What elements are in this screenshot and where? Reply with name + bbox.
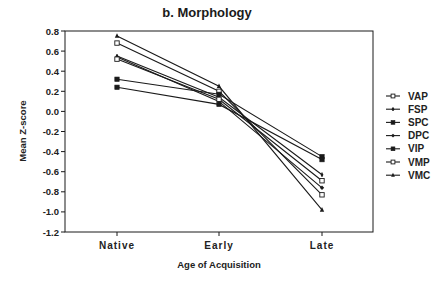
series-vap [115,41,324,197]
open-square-marker-icon [320,179,324,183]
y-tick-label: -1.2 [43,227,59,238]
filled-square-marker-icon [115,85,119,89]
legend-item-dpc: DPC [386,130,429,141]
y-tick-label: 0.6 [46,46,59,57]
legend-item-vmp: VMP [386,157,430,168]
triangle-marker-icon [115,33,119,38]
legend-item-fsp: FSP [386,104,428,115]
open-square-marker-icon [391,94,395,98]
plus-marker-icon [321,173,324,177]
y-tick-label: 0.2 [46,86,59,97]
series-layer [115,33,324,211]
legend-label: VMC [408,170,430,181]
series-line [117,57,322,188]
y-tick-label: 0.8 [46,26,59,37]
y-tick-label: -0.2 [43,126,59,137]
filled-square-marker-icon [320,157,324,161]
filled-square-marker-icon [115,77,119,81]
open-square-marker-icon [391,160,395,164]
open-square-marker-icon [115,57,119,61]
filled-square-marker-icon [217,92,221,96]
open-square-marker-icon [320,193,324,197]
filled-square-marker-icon [391,147,395,151]
plot-frame [65,31,373,232]
series-vmp [115,57,324,183]
diamond-marker-icon [391,134,395,138]
legend-label: VAP [408,91,428,102]
y-tick-label: -0.8 [43,186,59,197]
legend-label: SPC [408,117,429,128]
legend-item-vap: VAP [386,91,428,102]
chart-title: b. Morphology [162,5,252,20]
plus-marker-icon [392,107,395,111]
y-tick-label: -0.4 [43,146,60,157]
filled-square-marker-icon [217,102,221,106]
x-tick-label: Late [310,240,335,251]
legend-label: DPC [408,130,429,141]
x-tick-label: Native [99,240,135,251]
series-line [117,43,322,195]
legend-label: VIP [408,143,424,154]
legend: VAPFSPSPCDPCVIPVMPVMC [386,91,430,181]
legend-label: VMP [408,157,430,168]
filled-square-marker-icon [391,121,395,125]
series-vmc [115,33,324,211]
y-axis: 0.80.60.40.20.0-0.2-0.4-0.6-0.8-1.0-1.2 [43,26,65,238]
x-tick-label: Early [204,240,233,251]
chart: b. Morphology 0.80.60.40.20.0-0.2-0.4-0.… [0,0,443,282]
series-fsp [116,54,324,177]
y-tick-label: -1.0 [43,206,59,217]
x-axis-title: Age of Acquisition [177,259,261,270]
y-axis-title: Mean Z-score [17,100,28,161]
y-tick-label: -0.6 [43,166,59,177]
legend-item-spc: SPC [386,117,429,128]
series-line [117,36,322,210]
legend-item-vip: VIP [386,143,424,154]
x-axis: NativeEarlyLate [99,232,334,251]
legend-item-vmc: VMC [386,170,430,181]
series-dpc [115,55,324,190]
open-square-marker-icon [115,41,119,45]
y-tick-label: 0.0 [46,106,59,117]
legend-label: FSP [408,104,428,115]
y-tick-label: 0.4 [46,66,60,77]
open-square-marker-icon [217,97,221,101]
